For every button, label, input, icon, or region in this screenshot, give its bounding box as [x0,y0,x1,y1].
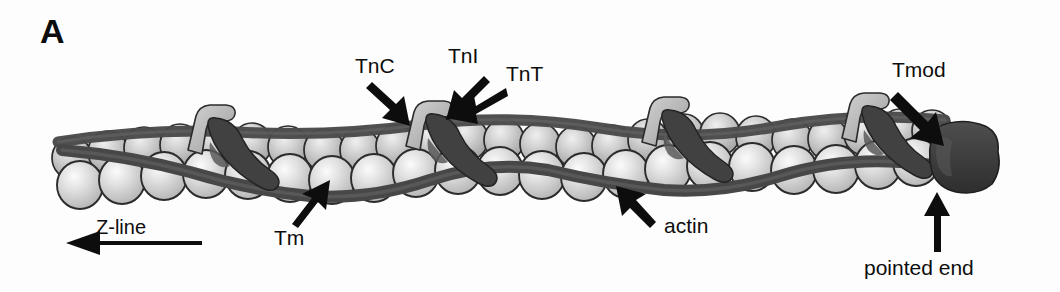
figure-panel: A TnC TnI TnT Tmod Tm actin Z-line point… [0,0,1060,292]
label-z-line: Z-line [96,216,146,239]
filament-illustration [0,0,1060,292]
label-tm: Tm [274,226,304,250]
panel-letter: A [40,12,65,51]
tnc-arrow-icon [366,82,410,126]
pointed-end-arrow-icon [924,192,950,252]
label-tmod: Tmod [892,58,946,82]
label-tnc: TnC [355,54,395,78]
label-tnt: TnT [506,62,543,86]
label-tni: TnI [448,44,478,68]
label-pointed-end: pointed end [864,256,974,280]
label-actin: actin [664,214,708,238]
